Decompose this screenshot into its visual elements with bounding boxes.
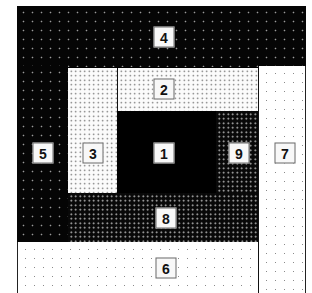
region-6 <box>17 242 259 293</box>
label-1: 1 <box>154 143 175 164</box>
label-7: 7 <box>275 143 296 164</box>
label-5: 5 <box>33 143 54 164</box>
region-2 <box>117 68 258 111</box>
label-3: 3 <box>83 143 104 164</box>
label-4: 4 <box>154 27 175 48</box>
label-6: 6 <box>156 258 177 279</box>
region-3 <box>68 68 117 193</box>
label-2: 2 <box>154 79 175 100</box>
label-8: 8 <box>156 208 177 229</box>
label-9: 9 <box>229 143 250 164</box>
region-7 <box>258 66 306 293</box>
